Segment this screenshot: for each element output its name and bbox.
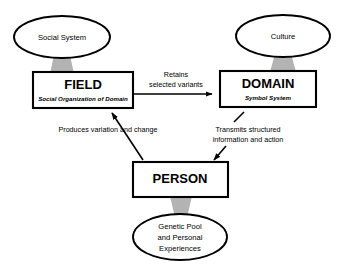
- node-domain: DOMAIN Symbol System: [220, 71, 316, 107]
- genetic-pool-label-line3: Experiences: [159, 244, 201, 253]
- systems-model-of-creativity-diagram: Social System Culture FIELD Social Organ…: [0, 0, 347, 270]
- node-genetic-pool: Genetic Pool and Personal Experiences: [133, 214, 227, 260]
- domain-to-person-arrow-upper: [234, 112, 244, 122]
- genetic-pool-label-line1: Genetic Pool: [158, 222, 202, 231]
- field-to-domain-label-line2: selected variants: [149, 80, 203, 89]
- diagram-canvas: Social System Culture FIELD Social Organ…: [0, 0, 347, 270]
- field-label: FIELD: [64, 77, 102, 92]
- person-to-field-arrow: [112, 113, 143, 160]
- edge-domain-to-person: Transmits structured information and act…: [213, 112, 284, 160]
- genetic-pool-label-line2: and Personal: [158, 233, 203, 242]
- edge-person-to-field: Produces variation and change: [58, 113, 157, 160]
- node-culture: Culture: [236, 15, 330, 57]
- node-social-system: Social System: [14, 16, 110, 58]
- person-label: PERSON: [153, 171, 208, 186]
- domain-to-person-label-line1: Transmits structured: [215, 125, 280, 134]
- domain-sublabel: Symbol System: [245, 94, 292, 101]
- node-person: PERSON: [133, 162, 228, 197]
- node-field: FIELD Social Organization of Domain: [33, 72, 133, 108]
- culture-label: Culture: [271, 32, 295, 41]
- edge-field-to-domain: Retains selected variants: [134, 70, 212, 94]
- person-to-field-label: Produces variation and change: [58, 125, 157, 134]
- domain-to-person-arrow-lower: [214, 146, 226, 160]
- field-to-domain-label-line1: Retains: [164, 70, 189, 79]
- social-system-label: Social System: [38, 33, 86, 42]
- domain-to-person-label-line2: information and action: [213, 135, 284, 144]
- field-sublabel: Social Organization of Domain: [38, 95, 128, 102]
- domain-label: DOMAIN: [242, 76, 295, 91]
